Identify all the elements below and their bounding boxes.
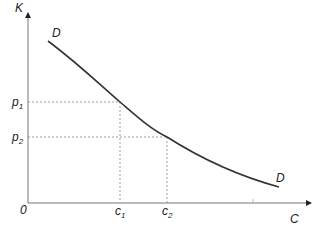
curve-label-end: D bbox=[276, 171, 285, 185]
y-axis-label: K bbox=[15, 1, 24, 15]
curve-label-start: D bbox=[52, 26, 61, 40]
y-tick-p1: p1 bbox=[11, 95, 23, 111]
x-tick-c2: c2 bbox=[162, 204, 173, 220]
x-axis-label: C bbox=[290, 212, 299, 226]
origin-label: 0 bbox=[20, 203, 27, 217]
demand-curve bbox=[48, 41, 279, 187]
demand-curve-diagram: K C 0 D D p1 p2 c1 c2 bbox=[0, 0, 323, 230]
guide-lines bbox=[28, 102, 167, 203]
x-tick-c1: c1 bbox=[115, 204, 125, 220]
y-tick-p2: p2 bbox=[11, 130, 24, 146]
